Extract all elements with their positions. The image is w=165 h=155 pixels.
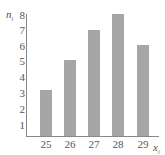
bar-27 <box>88 30 100 136</box>
y-tick-7: 7 <box>17 25 25 36</box>
y-tick-1: 1 <box>17 120 25 131</box>
bar-29 <box>137 45 149 136</box>
x-axis <box>26 136 159 137</box>
x-axis-label: xi <box>153 141 160 155</box>
y-tick-4: 4 <box>17 72 25 83</box>
x-tick-25: 25 <box>36 139 56 150</box>
y-tick-2: 2 <box>17 104 25 115</box>
x-tick-29: 29 <box>133 139 153 150</box>
bar-26 <box>64 60 76 136</box>
x-tick-27: 27 <box>84 139 104 150</box>
y-axis-label: ni <box>6 8 13 22</box>
frequency-bar-chart: ni 8 7 6 5 4 3 2 1 25 26 27 28 29 xi <box>0 0 165 155</box>
x-tick-26: 26 <box>60 139 80 150</box>
y-tick-5: 5 <box>17 56 25 67</box>
bar-28 <box>112 14 124 136</box>
y-tick-3: 3 <box>17 88 25 99</box>
y-tick-6: 6 <box>17 41 25 52</box>
y-axis <box>26 14 27 136</box>
y-tick-8: 8 <box>17 10 25 21</box>
bar-25 <box>40 90 52 136</box>
x-tick-28: 28 <box>108 139 128 150</box>
